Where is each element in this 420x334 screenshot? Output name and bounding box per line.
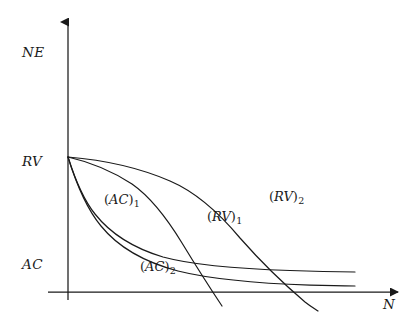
curve-base: AC	[145, 259, 164, 274]
curve-subscript: 2	[170, 265, 176, 276]
curve-base: RV	[212, 209, 231, 224]
x-axis-label: N	[383, 298, 395, 312]
y-axis-label-ac: AC	[22, 258, 43, 272]
paren-close: )	[128, 192, 133, 207]
curve-subscript: 2	[298, 195, 304, 206]
plot-canvas	[0, 0, 420, 334]
curve-label-rv1: (RV)1	[207, 210, 242, 223]
curve-subscript: 1	[134, 198, 140, 209]
curve-label-ac2: (AC)2	[140, 260, 176, 273]
curve-rv2	[68, 157, 318, 311]
y-axis-label-rv: RV	[22, 155, 42, 169]
y-axis-label-ne: NE	[22, 46, 44, 60]
curve-label-rv2: (RV)2	[269, 190, 304, 203]
curve-base: RV	[274, 189, 293, 204]
curve-base: AC	[109, 192, 128, 207]
curve-label-ac1: (AC)1	[104, 193, 140, 206]
curve-subscript: 1	[236, 215, 242, 226]
paren-close: )	[164, 259, 169, 274]
economics-curve-figure: NE RV AC N (AC)1 (AC)2 (RV)1 (RV)2	[0, 0, 420, 334]
curve-rv1	[68, 157, 222, 306]
